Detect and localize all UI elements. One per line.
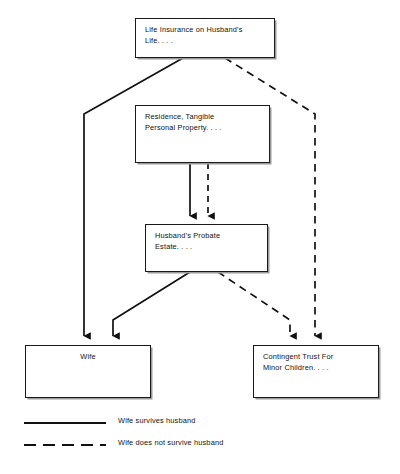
node-contingent-trust[interactable]: Contingent Trust For Minor Children. . .… xyxy=(253,345,379,398)
legend-row-solid: Wife survives husband xyxy=(24,414,344,436)
node-life-insurance[interactable]: Life Insurance on Husband's Life. . . . xyxy=(135,18,275,58)
flowchart-diagram: Life Insurance on Husband's Life. . . . … xyxy=(0,0,400,474)
node-life-insurance-label: Life Insurance on Husband's Life. . . . xyxy=(145,25,269,46)
node-wife[interactable]: Wife xyxy=(25,345,151,398)
node-probate-estate[interactable]: Husband's Probate Estate. . . . xyxy=(145,224,268,272)
node-residence[interactable]: Residence, Tangible Personal Property. .… xyxy=(135,105,270,163)
legend-row-dashed: Wife does not survive husband xyxy=(24,436,344,458)
legend-dashed-label: Wife does not survive husband xyxy=(118,438,223,447)
node-contingent-trust-label: Contingent Trust For Minor Children. . .… xyxy=(263,352,373,373)
edge-probate-to-trust xyxy=(218,272,290,336)
edge-insurance-to-trust xyxy=(225,58,315,336)
edge-probate-to-wife xyxy=(113,272,190,336)
node-wife-label: Wife xyxy=(26,352,150,363)
legend-solid-line-icon xyxy=(24,422,106,424)
edge-insurance-to-wife xyxy=(84,58,183,336)
legend-solid-label: Wife survives husband xyxy=(118,416,196,425)
legend: Wife survives husband Wife does not surv… xyxy=(24,414,344,458)
legend-dashed-line-icon xyxy=(24,444,106,446)
node-residence-label: Residence, Tangible Personal Property. .… xyxy=(145,112,264,133)
node-probate-estate-label: Husband's Probate Estate. . . . xyxy=(155,231,262,252)
